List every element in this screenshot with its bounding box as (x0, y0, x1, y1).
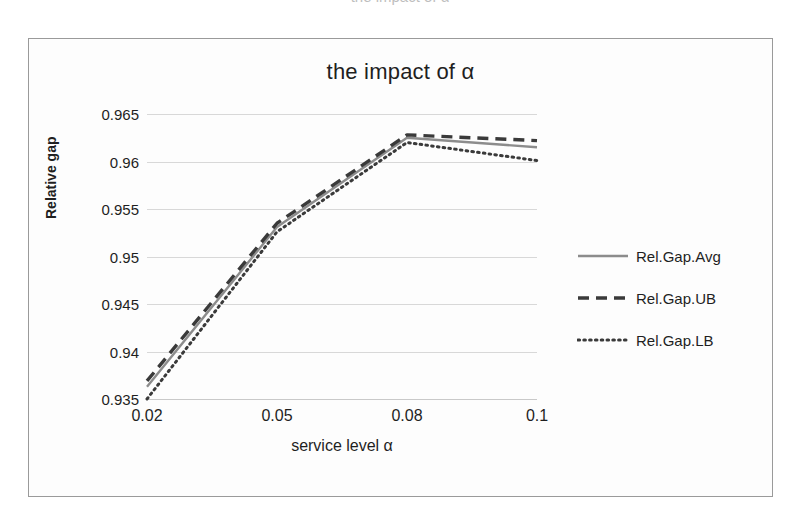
legend-item[interactable]: Rel.Gap.Avg (577, 235, 767, 277)
plot-area (147, 114, 537, 399)
legend-line-sample-icon (577, 249, 629, 263)
x-axis-tick-label: 0.1 (526, 407, 548, 425)
series-line-rel-gap-ub (147, 135, 537, 381)
chart-frame: the impact of α Relative gap 0.9650.960.… (28, 38, 773, 497)
scan-artifact-label: the impact of α (351, 0, 450, 5)
y-axis-tick-labels: 0.9650.960.9550.950.9450.940.935 (71, 114, 139, 399)
y-axis-tick-label: 0.945 (77, 296, 139, 313)
series-line-rel-gap-avg (147, 138, 537, 387)
chart-title: the impact of α (29, 59, 772, 85)
legend-item[interactable]: Rel.Gap.LB (577, 319, 767, 361)
legend-item-label: Rel.Gap.UB (636, 290, 716, 307)
y-axis-title: Relative gap (43, 137, 59, 219)
legend-item[interactable]: Rel.Gap.UB (577, 277, 767, 319)
y-axis-tick-label: 0.965 (77, 106, 139, 123)
x-axis-tick-label: 0.08 (391, 407, 422, 425)
legend-line-sample-icon (577, 333, 629, 347)
legend-line-sample-icon (577, 291, 629, 305)
x-axis-tick-label: 0.05 (261, 407, 292, 425)
series-lines (147, 114, 537, 399)
x-axis-tick-label: 0.02 (131, 407, 162, 425)
x-axis-tick-labels: 0.020.050.080.1 (147, 407, 537, 431)
y-axis-tick-label: 0.955 (77, 201, 139, 218)
legend-item-label: Rel.Gap.Avg (636, 248, 721, 265)
scan-artifact-top-text: the impact of α (0, 0, 800, 22)
y-axis-tick-label: 0.94 (77, 343, 139, 360)
gridline (147, 399, 537, 400)
y-axis-tick-label: 0.96 (77, 153, 139, 170)
legend-item-label: Rel.Gap.LB (636, 332, 714, 349)
y-axis-tick-label: 0.95 (77, 248, 139, 265)
y-axis-tick-label: 0.935 (77, 391, 139, 408)
x-axis-title: service level α (147, 437, 537, 455)
chart-legend: Rel.Gap.AvgRel.Gap.UBRel.Gap.LB (577, 235, 767, 361)
